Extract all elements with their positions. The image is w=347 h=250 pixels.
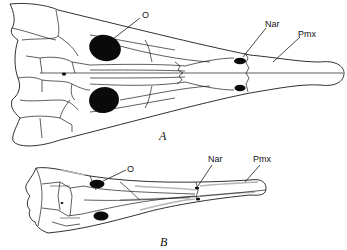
- skull-a-outline: [10, 3, 344, 145]
- label-pmx-b: Pmx: [253, 154, 272, 164]
- label-nar-b: Nar: [208, 154, 223, 164]
- leader-pmx-a: [273, 37, 300, 62]
- orbit-a-lower: [87, 85, 121, 116]
- orbit-b-upper: [90, 180, 105, 188]
- naris-a-lower: [235, 85, 246, 91]
- label-nar-a: Nar: [265, 19, 280, 29]
- orbit-a-upper: [86, 31, 124, 64]
- pineal-foramen-a: [62, 72, 66, 75]
- label-pmx-a: Pmx: [298, 29, 317, 39]
- skull-diagram: O Nar Pmx A: [0, 0, 347, 250]
- skull-b: O Nar Pmx B: [26, 154, 272, 249]
- panel-label-a: A: [158, 129, 167, 143]
- skull-b-outline: [26, 168, 266, 233]
- orbit-b-lower: [94, 212, 109, 221]
- pineal-foramen-b: [61, 202, 64, 204]
- leader-nar-a: [243, 28, 266, 57]
- naris-b-upper: [195, 187, 199, 190]
- label-o-a: O: [142, 10, 149, 20]
- panel-label-b: B: [160, 235, 168, 249]
- leader-nar-b: [198, 165, 212, 186]
- skull-a: O Nar Pmx A: [10, 3, 344, 145]
- naris-a-upper: [234, 58, 246, 64]
- naris-b-lower: [196, 198, 200, 201]
- label-o-b: O: [127, 164, 134, 174]
